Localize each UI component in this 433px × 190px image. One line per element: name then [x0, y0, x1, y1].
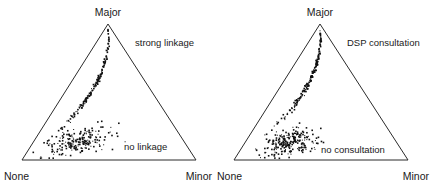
- data-point: [294, 132, 296, 134]
- data-point: [104, 62, 106, 64]
- data-point: [85, 147, 87, 149]
- data-point: [94, 139, 96, 141]
- right-vertex-minor-label: Minor: [403, 170, 430, 182]
- data-point: [289, 109, 291, 111]
- data-point: [58, 130, 60, 132]
- data-point: [304, 95, 305, 96]
- data-point: [81, 150, 83, 152]
- data-point: [89, 95, 91, 97]
- data-point: [317, 55, 319, 57]
- data-point: [96, 79, 98, 81]
- data-point: [86, 144, 87, 145]
- data-point: [302, 140, 303, 141]
- data-point: [80, 152, 82, 154]
- data-point: [77, 139, 79, 141]
- data-point: [303, 132, 305, 134]
- data-point: [310, 80, 312, 82]
- data-point: [73, 139, 74, 140]
- data-point: [100, 74, 102, 76]
- data-point: [260, 157, 261, 158]
- data-point: [48, 144, 50, 146]
- data-point: [319, 50, 321, 52]
- data-point: [276, 137, 278, 139]
- data-point: [311, 148, 313, 150]
- data-point: [104, 139, 106, 141]
- data-point: [88, 130, 90, 132]
- data-point: [312, 75, 313, 76]
- data-point: [288, 133, 290, 135]
- data-point: [299, 136, 301, 138]
- data-point: [76, 146, 77, 147]
- data-point: [275, 134, 277, 136]
- data-point: [291, 154, 292, 155]
- data-point: [273, 140, 274, 141]
- data-point: [75, 111, 76, 112]
- data-point: [52, 157, 54, 159]
- data-point: [312, 141, 314, 143]
- data-point: [291, 112, 293, 114]
- data-point: [281, 118, 283, 120]
- data-point: [320, 46, 322, 48]
- data-point: [65, 142, 66, 143]
- data-point: [81, 147, 83, 149]
- data-point: [99, 136, 101, 138]
- data-point: [296, 102, 298, 104]
- data-point: [278, 141, 279, 142]
- data-point: [314, 147, 315, 148]
- data-point: [276, 140, 277, 141]
- data-point: [80, 133, 81, 134]
- data-point: [317, 61, 319, 63]
- data-point: [312, 72, 314, 74]
- data-point: [296, 104, 298, 106]
- data-point: [284, 119, 285, 120]
- data-point: [267, 147, 269, 149]
- data-point: [294, 100, 296, 102]
- data-point: [65, 155, 66, 156]
- data-point: [292, 127, 293, 128]
- data-point: [84, 103, 85, 104]
- data-point: [285, 149, 286, 150]
- data-point: [286, 144, 288, 146]
- data-point: [89, 134, 91, 136]
- data-point: [277, 123, 279, 125]
- data-point: [69, 121, 70, 122]
- data-point: [67, 130, 69, 132]
- data-point: [72, 144, 73, 145]
- data-point: [103, 61, 105, 63]
- left-annotation-strong-linkage: strong linkage: [135, 37, 194, 48]
- data-point: [78, 144, 79, 145]
- data-point: [99, 144, 100, 145]
- data-point: [70, 118, 72, 120]
- data-point: [95, 131, 96, 132]
- data-point: [88, 144, 90, 146]
- data-point: [272, 143, 274, 145]
- data-point: [70, 144, 72, 146]
- data-point: [91, 134, 93, 136]
- data-point: [69, 143, 71, 145]
- data-point: [79, 107, 81, 109]
- data-point: [95, 141, 97, 143]
- data-point: [93, 88, 95, 90]
- data-point: [81, 107, 83, 109]
- data-point: [303, 147, 305, 149]
- data-point: [274, 126, 275, 127]
- data-point: [310, 78, 311, 79]
- data-point: [305, 89, 306, 90]
- data-point: [71, 140, 73, 142]
- data-point: [320, 30, 321, 31]
- data-point: [111, 135, 113, 137]
- data-point: [300, 133, 302, 135]
- data-point: [289, 142, 290, 143]
- data-point: [102, 126, 104, 128]
- data-point: [84, 129, 86, 131]
- data-point: [40, 157, 42, 159]
- data-point: [110, 127, 111, 128]
- data-point: [74, 116, 76, 118]
- data-point: [90, 136, 91, 137]
- data-point: [287, 113, 289, 115]
- data-point: [276, 149, 277, 150]
- data-point: [56, 151, 58, 153]
- data-point: [32, 152, 34, 154]
- data-point: [48, 139, 50, 141]
- data-point: [63, 143, 64, 144]
